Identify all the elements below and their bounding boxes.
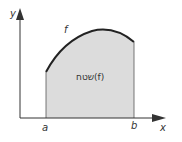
y-axis-label: y xyxy=(10,8,16,19)
x-axis-arrow-icon xyxy=(152,114,166,122)
y-axis-arrow-icon xyxy=(16,8,24,20)
function-label: f xyxy=(64,24,68,35)
area-under-curve-diagram xyxy=(0,0,182,142)
tick-a-label: a xyxy=(42,122,48,133)
area-label: שטח(f) xyxy=(76,72,104,82)
x-axis-label: x xyxy=(160,122,166,133)
tick-b-label: b xyxy=(131,120,137,131)
